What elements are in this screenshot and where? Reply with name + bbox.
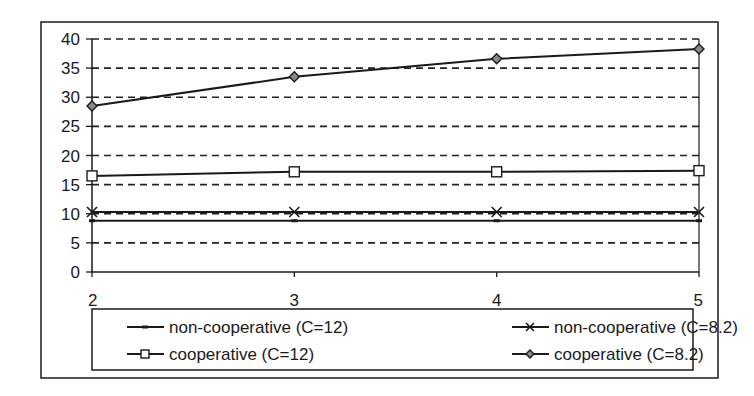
y-tick-label: 0 [71, 263, 80, 282]
legend-label: cooperative (C=12) [169, 345, 314, 364]
series-cooperative-c-8-2 [87, 44, 704, 111]
data-series [87, 44, 704, 221]
y-tick-label: 20 [61, 147, 80, 166]
diamond-marker-icon [492, 54, 502, 64]
square-marker-icon [289, 167, 299, 177]
axes [86, 39, 699, 277]
legend-label: non-cooperative (C=12) [169, 318, 348, 337]
y-tick-label: 30 [61, 88, 80, 107]
square-marker-icon [492, 167, 502, 177]
legend: non-cooperative (C=12)non-cooperative (C… [92, 309, 738, 370]
square-marker-icon [694, 166, 704, 176]
y-tick-label: 15 [61, 176, 80, 195]
line-chart: 0510152025303540 2345 non-cooperative (C… [0, 0, 754, 396]
y-tick-label: 35 [61, 59, 80, 78]
series-line [92, 171, 699, 176]
legend-label: cooperative (C=8.2) [554, 345, 704, 364]
y-axis-tick-labels: 0510152025303540 [61, 30, 80, 282]
series-cooperative-c-12 [87, 166, 704, 181]
diamond-marker-icon [694, 44, 704, 54]
y-tick-label: 5 [71, 234, 80, 253]
x-tick-label: 4 [492, 291, 501, 310]
legend-label: non-cooperative (C=8.2) [554, 318, 738, 337]
series-non-cooperative-c-8-2 [87, 207, 704, 217]
y-tick-label: 40 [61, 30, 80, 49]
square-marker-icon [87, 171, 97, 181]
diamond-marker-icon [87, 101, 97, 111]
square-marker-icon [141, 350, 149, 358]
x-tick-label: 2 [88, 291, 97, 310]
x-axis-tick-labels: 2345 [88, 291, 703, 310]
y-tick-label: 25 [61, 117, 80, 136]
y-tick-label: 10 [61, 205, 80, 224]
x-tick-label: 3 [290, 291, 299, 310]
diamond-marker-icon [289, 72, 299, 82]
x-tick-label: 5 [694, 291, 703, 310]
